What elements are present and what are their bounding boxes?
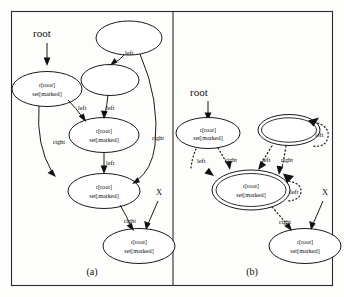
panel-b-node-1-line1: r[root] <box>200 126 216 133</box>
panel-a-edge-n5-n6-label: right <box>124 217 136 224</box>
figure-svg: root r[root] set[marked] r[root] set[mar… <box>0 0 344 297</box>
panel-a: root r[root] set[marked] r[root] set[mar… <box>12 21 175 278</box>
panel-a-root-entry-arrowhead <box>44 58 51 67</box>
panel-a-edge-n4-n5-label: left <box>106 159 115 166</box>
panel-b: root r[root] set[marked] left r[root] se… <box>176 86 341 278</box>
panel-b-caption: (b) <box>246 266 258 278</box>
panel-a-root-label: root <box>33 27 51 39</box>
panel-b-edge-n1-n3-left-label: left <box>197 157 206 164</box>
panel-a-node-5-line1: r[root] <box>96 183 112 190</box>
panel-a-edge-n1-n5-label: right <box>152 134 164 141</box>
panel-a-node-2-line2: set[marked] <box>32 90 62 97</box>
panel-a-edge-n2-n5-arrowhead <box>48 170 57 177</box>
panel-b-edge-n2-n3-right-arrowhead <box>277 166 284 175</box>
panel-a-edge-n2-n5-label: right <box>53 138 65 145</box>
panel-a-node-2-line1: r[root] <box>39 81 55 88</box>
panel-a-edge-n4-n5-arrowhead <box>101 166 108 175</box>
panel-b-node-4-line1: r[root] <box>297 238 313 245</box>
panel-a-node-3[interactable] <box>81 65 139 96</box>
panel-b-node-1-line2: set[marked] <box>193 134 223 141</box>
panel-b-edge-n3-n4-label: right <box>279 218 291 225</box>
panel-b-x-label: X <box>322 187 328 197</box>
panel-b-selfloop-n3-label: left <box>290 188 299 195</box>
panel-a-node-6-line1: r[root] <box>131 238 147 245</box>
panel-b-node-2-inner <box>262 118 317 142</box>
panel-b-edge-n2-n3-left-label: left <box>262 156 271 163</box>
panel-b-x-edge <box>313 201 323 224</box>
figure-container: root r[root] set[marked] r[root] set[mar… <box>0 0 344 297</box>
panel-a-node-4-line1: r[root] <box>96 127 112 134</box>
panel-a-node-5-line2: set[marked] <box>89 192 119 199</box>
panel-a-edge-n3-n4-label: left <box>106 104 115 111</box>
panel-b-edge-n1-n3-right-label: right <box>225 156 237 163</box>
panel-b-edge-n1-n3-left-arrowhead <box>205 168 215 176</box>
panel-b-root-label: root <box>190 86 208 98</box>
panel-a-edge-n2-n5 <box>39 106 52 172</box>
panel-a-node-6-line2: set[marked] <box>124 247 154 254</box>
panel-a-x-label: X <box>156 187 162 197</box>
panel-b-selfloop-n2-label: left <box>315 131 324 138</box>
panel-a-node-4-line2: set[marked] <box>89 136 119 143</box>
panel-b-node-3-line2: set[marked] <box>236 191 266 198</box>
panel-a-caption: (a) <box>86 266 97 278</box>
panel-a-x-edge <box>148 201 158 224</box>
panel-a-edge-n1-n5 <box>136 54 156 181</box>
panel-b-node-4-line2: set[marked] <box>290 247 320 254</box>
panel-b-node-3-line1: r[root] <box>243 182 259 189</box>
panel-a-edge-n2-n4-label: left <box>78 104 87 111</box>
panel-b-edge-n2-n3-right-label: right <box>281 156 293 163</box>
panel-b-edge-n1-n3-left <box>191 149 196 168</box>
panel-a-edge-n1-n3-label: left <box>125 49 134 56</box>
